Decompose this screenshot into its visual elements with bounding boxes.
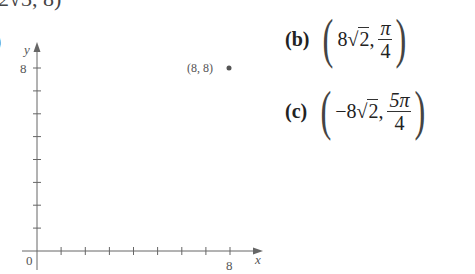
data-point [227,66,232,71]
x-tick-label-8: 8 [226,258,233,273]
part-c-tag: (c) [285,100,307,123]
y-axis-label: y [22,42,30,57]
x-axis-label: x [254,252,261,267]
part-c-coef: −8 [335,100,356,123]
part-b-fraction: π 4 [378,17,392,62]
y-tick-label-8: 8 [20,61,27,76]
point-label: (8, 8) [187,61,213,75]
sqrt-icon: √2 [347,28,369,51]
part-c: (c) ( −8 √2 , 5π 4 ) [285,84,429,138]
part-b-tag: (b) [285,28,309,51]
origin-label: 0 [26,253,33,268]
part-c-fraction: 5π 4 [387,89,411,134]
right-paren: ) [396,12,407,66]
y-axis-arrow-icon [34,42,41,52]
right-paren: ) [415,84,426,138]
part-b: (b) ( 8 √2 , π 4 ) [285,12,410,66]
left-paren: ( [323,12,334,66]
left-paren: ( [321,84,332,138]
part-b-coef: 8 [337,28,347,51]
coordinate-plot: y 8 0 8 x (8, 8) [0,0,270,274]
sqrt-icon: √2 [356,100,378,123]
